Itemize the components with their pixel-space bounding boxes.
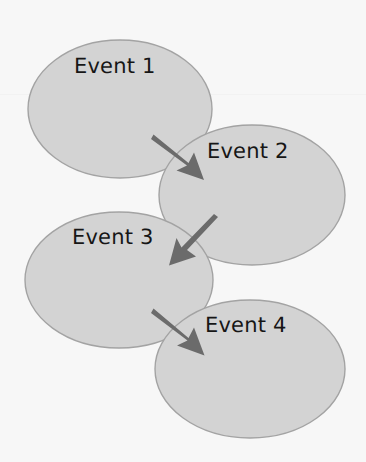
node-label-event-3: Event 3: [72, 227, 154, 248]
node-label-event-1: Event 1: [74, 56, 156, 77]
node-label-event-2: Event 2: [207, 141, 289, 162]
node-label-event-4: Event 4: [205, 315, 287, 336]
diagram-graphics: [0, 0, 366, 462]
diagram-canvas: Event 1 Event 2 Event 3 Event 4: [0, 0, 366, 462]
